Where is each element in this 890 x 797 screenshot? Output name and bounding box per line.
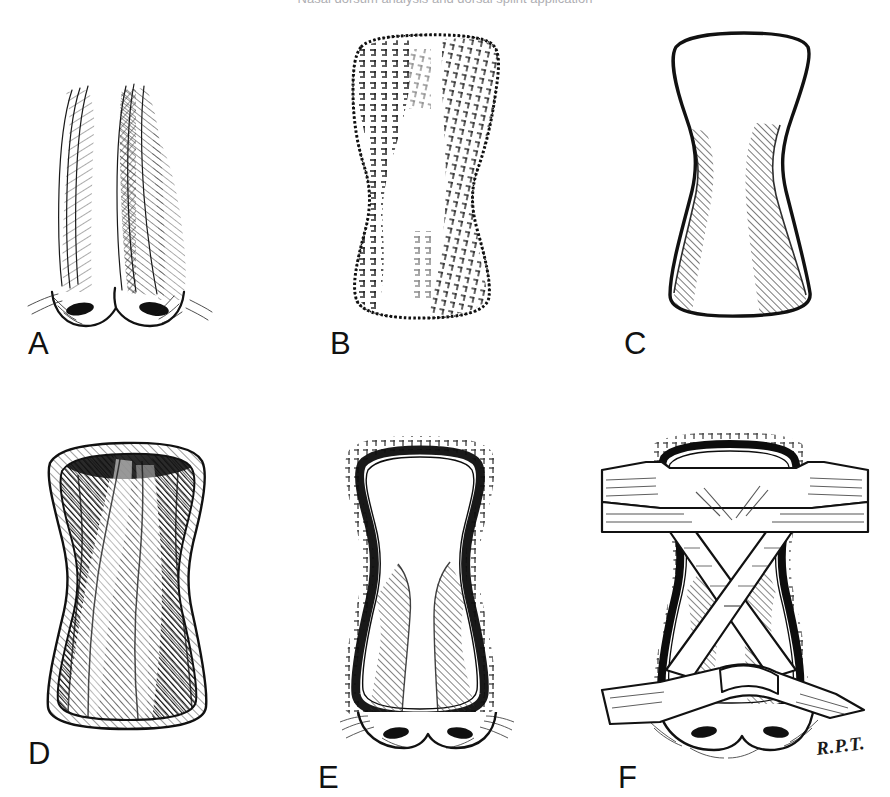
panel-a-drawing: [14, 60, 224, 330]
panel-label-b: B: [330, 328, 351, 359]
panel-a-right-sidewall-shading: [14, 60, 224, 330]
panel-f-crossed-tape-fixation: [600, 432, 870, 772]
panel-a-frontal-nose-hatched: [14, 60, 224, 330]
panel-f-drawing: [600, 432, 870, 772]
panel-label-a: A: [28, 328, 49, 359]
panel-f-tape-upper-transverse: [602, 462, 868, 508]
panel-d-hourglass-solid-shaded: [28, 435, 238, 735]
panel-e-drawing: [318, 430, 533, 760]
panel-d-drawing: [28, 435, 238, 735]
figure-caption-text: Nasal dorsum analysis and dorsal splint …: [0, 0, 890, 5]
panel-e-splint-on-nose: [318, 430, 533, 760]
panel-a-left-sidewall-shading: [14, 60, 224, 330]
panel-label-e: E: [318, 762, 339, 793]
panel-c-hourglass-outline-hatched: [630, 25, 850, 325]
panel-c-drawing: [630, 25, 850, 325]
figure-caption-strip: Nasal dorsum analysis and dorsal splint …: [0, 0, 890, 9]
figure-root: Nasal dorsum analysis and dorsal splint …: [0, 0, 890, 797]
panel-label-d: D: [28, 738, 51, 769]
panel-b-hourglass-stipple-template: [325, 25, 535, 325]
panel-label-c: C: [624, 328, 647, 359]
panel-e-nasal-tip: [340, 712, 514, 748]
panel-label-f: F: [618, 762, 637, 793]
panel-a-right-cheek-shading: [14, 60, 224, 330]
panel-b-drawing: [325, 25, 535, 325]
